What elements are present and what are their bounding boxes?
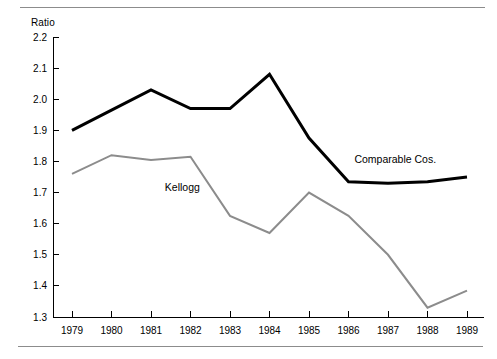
- series-label-kellogg: Kellogg: [165, 181, 200, 193]
- y-tick-label: 2.0: [33, 94, 47, 105]
- y-tick-label: 1.9: [33, 125, 47, 136]
- chart-page: Ratio 2.22.12.01.91.81.71.61.51.41.31979…: [0, 0, 497, 359]
- series-line-kellogg: [72, 155, 467, 307]
- x-tick-label: 1989: [456, 325, 479, 336]
- x-tick-label: 1983: [219, 325, 242, 336]
- line-chart-svg: 2.22.12.01.91.81.71.61.51.41.31979198019…: [0, 0, 497, 359]
- x-tick-label: 1982: [179, 325, 202, 336]
- series-label-comparable-cos: Comparable Cos.: [354, 153, 436, 165]
- y-tick-label: 1.8: [33, 156, 47, 167]
- y-tick-label: 1.4: [33, 280, 47, 291]
- x-tick-label: 1985: [298, 325, 321, 336]
- x-tick-label: 1984: [258, 325, 281, 336]
- x-tick-label: 1979: [61, 325, 84, 336]
- x-tick-label: 1980: [100, 325, 123, 336]
- y-tick-label: 1.3: [33, 312, 47, 323]
- x-tick-label: 1987: [377, 325, 400, 336]
- bottom-divider-rule: [18, 346, 483, 347]
- y-tick-label: 2.2: [33, 32, 47, 43]
- y-tick-label: 1.7: [33, 187, 47, 198]
- x-tick-label: 1981: [140, 325, 163, 336]
- series-line-comparable-cos: [72, 74, 467, 183]
- y-tick-label: 1.5: [33, 249, 47, 260]
- x-tick-label: 1986: [337, 325, 360, 336]
- y-tick-label: 1.6: [33, 218, 47, 229]
- x-tick-label: 1988: [416, 325, 439, 336]
- y-tick-label: 2.1: [33, 63, 47, 74]
